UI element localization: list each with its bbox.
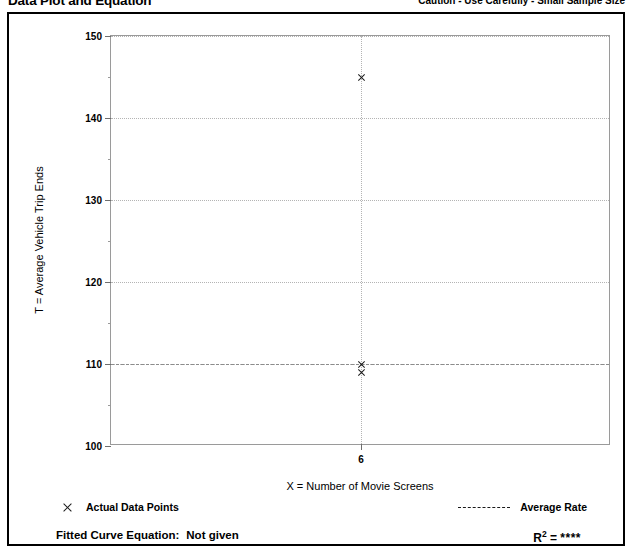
- y-axis-tick: [105, 200, 111, 201]
- plot-canvas: [111, 36, 609, 444]
- gridline-vertical: [361, 36, 362, 444]
- y-axis-tick: [105, 118, 111, 119]
- r-squared-label: R: [533, 531, 542, 545]
- y-axis-tick-label: 110: [86, 359, 102, 370]
- gridline-horizontal: [111, 36, 609, 37]
- r-squared-equals: =: [550, 531, 557, 545]
- legend-label-average-rate: Average Rate: [520, 501, 587, 513]
- fitted-curve-equation: Fitted Curve Equation:Not given: [56, 529, 239, 541]
- x-axis-title: X = Number of Movie Screens: [110, 480, 610, 492]
- x-axis-tick: [361, 444, 362, 450]
- page-title: Data Plot and Equation: [8, 0, 151, 8]
- equation-footer: Fitted Curve Equation:Not given R2 = ***…: [9, 529, 627, 548]
- chart-legend: Actual Data Points Average Rate: [9, 501, 627, 523]
- dashed-line-icon: [458, 507, 510, 508]
- y-axis-minor-tick: [108, 241, 112, 242]
- fitted-curve-value: Not given: [186, 529, 238, 541]
- x-axis-tick-label: 6: [358, 454, 364, 465]
- y-axis-tick: [105, 446, 111, 447]
- y-axis-tick: [105, 282, 111, 283]
- y-axis-tick: [105, 364, 111, 365]
- y-axis-minor-tick: [108, 323, 112, 324]
- fitted-curve-label: Fitted Curve Equation:: [56, 529, 179, 541]
- r-squared: R2 = ****: [533, 529, 581, 545]
- caution-note: Caution - Use Carefully - Small Sample S…: [418, 0, 625, 6]
- y-axis-tick-label: 140: [85, 113, 102, 124]
- y-axis-tick: [105, 36, 111, 37]
- y-axis-minor-tick: [108, 77, 112, 78]
- y-axis-tick-label: 120: [85, 277, 102, 288]
- plot-area: 1001101201301401506: [110, 35, 610, 445]
- legend-item-average-rate: Average Rate: [458, 501, 587, 513]
- y-axis-tick-label: 150: [85, 31, 102, 42]
- legend-label-data-points: Actual Data Points: [86, 501, 179, 513]
- data-point-marker: [357, 73, 366, 82]
- gridline-horizontal: [111, 118, 609, 119]
- y-axis-title: T = Average Vehicle Trip Ends: [31, 35, 47, 445]
- y-axis-minor-tick: [108, 405, 112, 406]
- gridline-horizontal: [111, 282, 609, 283]
- gridline-horizontal: [111, 200, 609, 201]
- data-point-marker: [357, 368, 366, 377]
- y-axis-tick-label: 100: [85, 441, 102, 452]
- plot-card: T = Average Vehicle Trip Ends 1001101201…: [7, 12, 625, 546]
- x-marker-icon: [62, 502, 73, 513]
- legend-item-data-points: Actual Data Points: [62, 501, 179, 513]
- r-squared-value: ****: [560, 531, 581, 545]
- y-axis-minor-tick: [108, 159, 112, 160]
- r-squared-exponent: 2: [542, 529, 547, 539]
- y-axis-tick-label: 130: [85, 195, 102, 206]
